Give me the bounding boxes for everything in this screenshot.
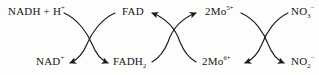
- label-mo5-charge: 5+: [226, 4, 233, 11]
- label-nad-text: NAD: [36, 55, 60, 67]
- label-mo6: 2Mo6+: [202, 56, 231, 67]
- label-mo6-text: 2Mo: [202, 55, 223, 67]
- label-nadh: NADH + H+: [8, 6, 65, 17]
- arrow-mo6-to-fad: [152, 13, 196, 62]
- arrow-nadh-to-fadh2: [64, 13, 108, 63]
- label-fad-text: FAD: [122, 5, 144, 17]
- redox-cycle-diagram: NADH + H+ FAD 2Mo5+ NO3− NAD+ FADH2 2Mo6…: [0, 0, 319, 75]
- arrow-fad-to-nad: [70, 13, 115, 63]
- label-mo5-text: 2Mo: [205, 5, 226, 17]
- label-no2-text: NO: [291, 55, 307, 67]
- label-nad: NAD+: [36, 56, 64, 67]
- label-fadh2: FADH2: [113, 56, 146, 67]
- arrow-fadh2-to-mo5: [152, 13, 196, 62]
- label-no3: NO3−: [291, 6, 315, 17]
- label-mo5: 2Mo5+: [205, 6, 234, 17]
- label-nadh-charge: +: [61, 4, 65, 11]
- label-nadh-text: NADH + H: [8, 5, 61, 17]
- label-fadh2-sub: 2: [143, 62, 146, 69]
- label-mo6-charge: 6+: [223, 54, 230, 61]
- label-fadh2-text: FADH: [113, 55, 143, 67]
- label-no2-charge: −: [311, 54, 315, 61]
- label-no3-charge: −: [311, 4, 315, 11]
- label-no3-text: NO: [291, 5, 307, 17]
- arrow-no3-to-no2: [245, 13, 288, 63]
- label-fad: FAD: [122, 6, 144, 17]
- label-nad-charge: +: [60, 54, 64, 61]
- label-no2: NO2−: [291, 56, 315, 67]
- label-no2-sub: 2: [307, 62, 310, 69]
- label-no3-sub: 3: [307, 12, 310, 19]
